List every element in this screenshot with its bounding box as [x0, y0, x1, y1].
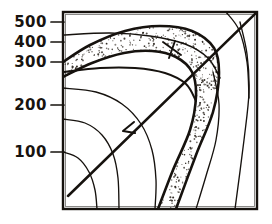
axis-tick-label: 300: [14, 53, 47, 71]
axis-tick-label: 200: [14, 96, 47, 114]
axis-tick-label: 100: [14, 143, 47, 161]
chart-figure: 500400300200100: [0, 0, 272, 224]
axis-tick-label: 500: [14, 13, 47, 31]
axis-tick-label: 400: [14, 33, 47, 51]
chart-canvas: 500400300200100: [0, 0, 272, 224]
